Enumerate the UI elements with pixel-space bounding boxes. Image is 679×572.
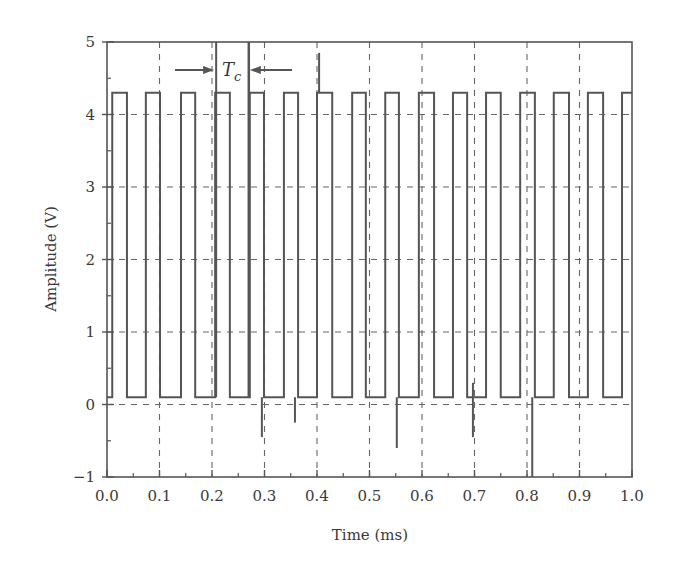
y-tick-label: 0 xyxy=(85,396,95,414)
x-tick-label: 1.0 xyxy=(620,487,644,505)
y-tick-label: 5 xyxy=(85,33,95,51)
x-tick-label: 0.1 xyxy=(148,487,172,505)
x-tick-label: 0.7 xyxy=(463,487,487,505)
y-tick-label: 1 xyxy=(85,323,95,341)
tc-subscript: c xyxy=(234,69,242,84)
axes: 0.00.10.20.30.40.50.60.70.80.91.0−101234… xyxy=(73,33,644,505)
x-tick-label: 0.9 xyxy=(568,487,592,505)
x-tick-label: 0.6 xyxy=(410,487,434,505)
y-axis-title: Amplitude (V) xyxy=(42,206,60,313)
chart: 0.00.10.20.30.40.50.60.70.80.91.0−101234… xyxy=(0,0,679,572)
arrow-left-icon xyxy=(250,66,261,74)
x-tick-label: 0.3 xyxy=(253,487,277,505)
y-tick-label: −1 xyxy=(73,468,95,486)
x-axis-title: Time (ms) xyxy=(332,526,408,544)
y-tick-label: 3 xyxy=(85,178,95,196)
y-tick-label: 2 xyxy=(85,251,95,269)
x-tick-label: 0.5 xyxy=(358,487,382,505)
x-tick-label: 0.4 xyxy=(305,487,329,505)
tc-annotation: Tc xyxy=(175,42,292,397)
tc-label: Tc xyxy=(222,59,242,84)
x-tick-label: 0.8 xyxy=(515,487,539,505)
x-tick-label: 0.0 xyxy=(95,487,119,505)
y-tick-label: 4 xyxy=(85,106,95,124)
x-tick-label: 0.2 xyxy=(200,487,224,505)
